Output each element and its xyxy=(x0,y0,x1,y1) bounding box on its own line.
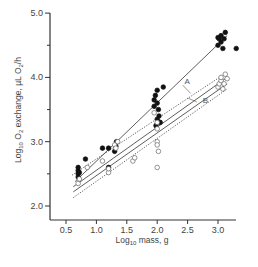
regression-lines xyxy=(72,36,227,198)
filled-point xyxy=(221,46,226,51)
open-point xyxy=(115,139,120,144)
filled-point xyxy=(106,146,111,151)
scatter-chart: 0.51.01.52.02.53.02.03.04.05.0 AB Log10 … xyxy=(0,0,258,267)
open-point xyxy=(155,165,160,170)
line-label-a: A xyxy=(185,77,191,86)
regression-line xyxy=(72,72,227,175)
open-point xyxy=(100,159,105,164)
open-point xyxy=(222,82,227,87)
open-point xyxy=(155,120,160,125)
regression-line xyxy=(75,36,227,182)
x-tick-label: 3.0 xyxy=(212,225,225,235)
filled-point xyxy=(216,35,221,40)
x-tick-label: 1.0 xyxy=(90,225,103,235)
open-point xyxy=(219,75,224,80)
open-point xyxy=(76,181,81,186)
x-axis-title: Log10 mass, g xyxy=(116,235,169,246)
filled-point xyxy=(155,88,160,93)
y-tick-label: 4.0 xyxy=(30,72,43,82)
x-tick-label: 2.5 xyxy=(181,225,194,235)
data-points xyxy=(76,30,239,186)
filled-point xyxy=(155,101,160,106)
regression-line xyxy=(73,89,227,198)
line-annotations: AB xyxy=(183,77,208,105)
line-label-b: B xyxy=(203,96,208,105)
filled-point xyxy=(153,93,158,98)
filled-point xyxy=(83,157,88,162)
open-point xyxy=(156,149,161,154)
open-point xyxy=(223,72,228,77)
label-a-leader xyxy=(183,85,191,93)
filled-point xyxy=(156,107,161,112)
filled-point xyxy=(77,170,82,175)
filled-point xyxy=(223,30,228,35)
filled-point xyxy=(234,46,239,51)
open-point xyxy=(155,127,160,132)
filled-point xyxy=(222,37,227,42)
regression-line xyxy=(73,77,227,186)
y-tick-label: 2.0 xyxy=(30,201,43,211)
open-point xyxy=(152,110,157,115)
x-tick-label: 1.5 xyxy=(121,225,134,235)
filled-point xyxy=(161,85,166,90)
open-point xyxy=(155,143,160,148)
axes: 0.51.01.52.02.53.02.03.04.05.0 xyxy=(30,8,236,235)
open-point xyxy=(225,76,230,81)
x-tick-label: 0.5 xyxy=(60,225,73,235)
open-point xyxy=(132,155,137,160)
filled-point xyxy=(100,146,105,151)
open-point xyxy=(85,165,90,170)
open-point xyxy=(77,177,82,182)
filled-point xyxy=(76,165,81,170)
y-tick-label: 3.0 xyxy=(30,137,43,147)
y-tick-label: 5.0 xyxy=(30,8,43,18)
open-point xyxy=(114,146,119,151)
x-tick-label: 2.0 xyxy=(151,225,164,235)
open-point xyxy=(106,166,111,171)
open-point xyxy=(221,87,226,92)
y-axis-title: Log10 O2 exchange, µL O2/h xyxy=(13,57,24,163)
